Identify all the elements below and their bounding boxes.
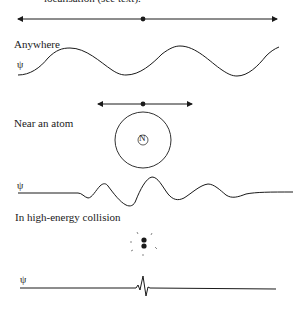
psi-symbol: ψ [20, 274, 26, 285]
nucleus-label: N [139, 133, 146, 143]
electron-dot-icon [141, 102, 146, 107]
wavefunction-collision [20, 276, 276, 296]
psi-symbol: ψ [17, 59, 23, 70]
panel-label-near-atom: Near an atom [14, 117, 73, 129]
particle-dot-icon [141, 17, 146, 22]
wavefunction-anywhere [18, 46, 279, 76]
collision-icon [130, 232, 157, 256]
psi-symbol: ψ [17, 180, 23, 191]
panel-label-anywhere: Anywhere [14, 38, 60, 50]
free-particle-arrow [18, 17, 277, 22]
bound-electron-arrow [98, 102, 192, 107]
panel-label-collision: In high-energy collision [15, 211, 121, 223]
wavefunction-near-atom [18, 177, 293, 206]
